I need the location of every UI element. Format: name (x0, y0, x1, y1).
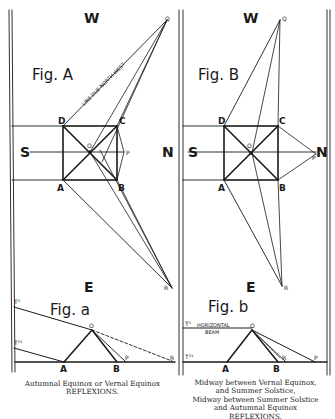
point-q-a: Q (165, 15, 170, 22)
fig-beta-caption: Midway between Vernal Equinox, and Summe… (183, 379, 328, 419)
point-d-a: D (58, 116, 65, 126)
point-a-b: A (218, 183, 225, 193)
compass-e-a: E (84, 279, 94, 295)
point-q-b: Q (282, 15, 287, 22)
point-t1-alpha: T¹ (13, 298, 21, 305)
point-b-beta: B (273, 364, 280, 374)
fig-alpha-caption: Autumnal Equinox or Vernal Equinox REFLE… (10, 380, 175, 397)
point-t2-alpha: T¹¹ (13, 339, 23, 346)
beam-label: BEAM (205, 329, 219, 335)
point-a-beta: A (222, 364, 229, 374)
point-o-b: O (247, 142, 252, 149)
fig-beta-caption-line-5: REFLEXIONS. (183, 413, 328, 419)
point-r-beta: R (282, 354, 286, 361)
compass-w-b: W (243, 10, 258, 26)
point-t1-beta: T¹ (184, 320, 192, 327)
compass-n-a: N (162, 144, 174, 160)
point-r-a: R (164, 284, 168, 291)
point-b-alpha: B (113, 364, 120, 374)
compass-s-b: S (188, 144, 198, 160)
fig-alpha-caption-line-2: REFLEXIONS. (10, 388, 175, 396)
fig-a-title: Fig. A (32, 66, 74, 84)
point-t2-beta: T¹¹ (184, 353, 194, 360)
point-o-alpha: O (89, 322, 94, 329)
point-p-alpha: P (125, 354, 129, 361)
fig-a-geometry (12, 20, 172, 288)
fig-b-labels: W Fig. B D C A B O P Q R S N E (188, 10, 328, 295)
reflexions-diagram: W Fig. A LINE DUE NORTH-WEST D C A B O P… (0, 0, 335, 419)
point-r-alpha: R (170, 354, 174, 361)
fig-b-title: Fig. B (198, 66, 239, 84)
point-b-b: B (279, 183, 286, 193)
point-a-alpha: A (60, 364, 67, 374)
point-o-a: O (87, 142, 92, 149)
fig-beta-title: Fig. b (208, 298, 248, 316)
compass-e-b: E (246, 279, 256, 295)
point-p-a: P (126, 149, 130, 156)
point-o-beta: O (250, 322, 255, 329)
compass-w-a: W (84, 10, 99, 26)
point-a-a: A (57, 183, 64, 193)
fig-alpha-geometry (14, 307, 175, 362)
point-b-a: B (118, 183, 125, 193)
fig-alpha-title: Fig. a (50, 301, 90, 319)
line-due-north-west-label: LINE DUE NORTH-WEST (80, 60, 126, 106)
compass-s-a: S (20, 144, 30, 160)
point-c-b: C (279, 116, 286, 126)
point-r-b: R (284, 284, 288, 291)
point-p-beta: P (314, 354, 318, 361)
point-c-a: C (119, 116, 126, 126)
compass-n-b: N (316, 144, 328, 160)
point-d-b: D (218, 116, 225, 126)
horizontal-label: HORIZONTAL (197, 322, 230, 328)
